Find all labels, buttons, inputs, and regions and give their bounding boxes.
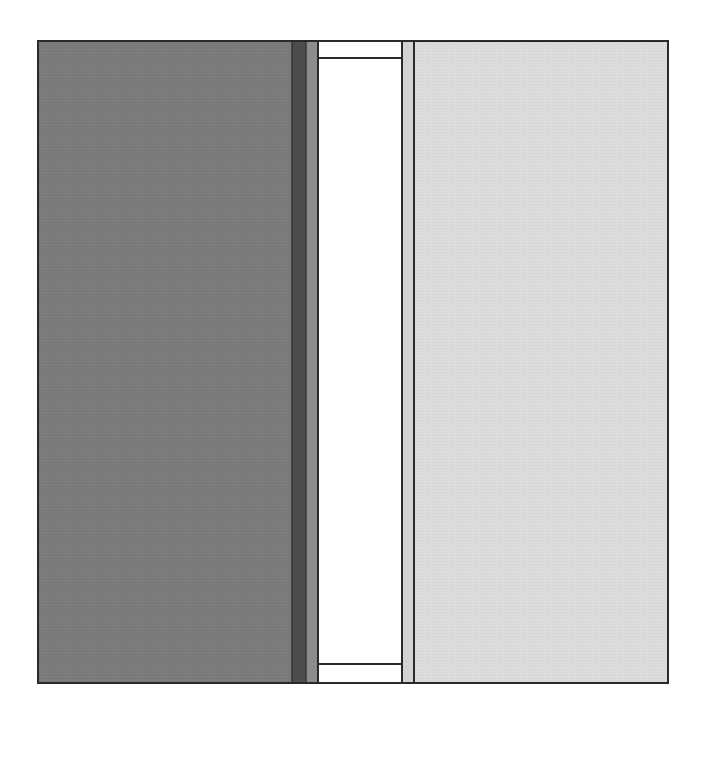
heat-transfer-diagram	[0, 0, 701, 771]
wall-mid-strip	[306, 41, 318, 683]
wall-dark-strip	[292, 41, 306, 683]
warm-panel	[414, 41, 668, 683]
air-cavity	[318, 41, 402, 683]
warm-strip	[402, 41, 414, 683]
cool-panel	[38, 41, 292, 683]
